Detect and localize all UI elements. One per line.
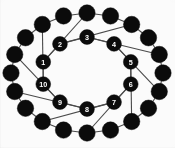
inner-node-circle bbox=[80, 30, 95, 45]
inner-node-circle bbox=[36, 54, 51, 69]
inner-node-1[interactable]: 1 bbox=[36, 54, 51, 69]
outer-node-11[interactable] bbox=[79, 125, 95, 141]
outer-node-9[interactable] bbox=[123, 113, 139, 129]
outer-node-5[interactable] bbox=[151, 46, 167, 62]
outer-node-10[interactable] bbox=[102, 122, 118, 138]
outer-node-16[interactable] bbox=[3, 65, 19, 81]
inner-node-9[interactable]: 9 bbox=[53, 95, 68, 110]
outer-node-18[interactable] bbox=[17, 30, 33, 46]
inner-node-circle bbox=[36, 77, 51, 92]
inner-node-7[interactable]: 7 bbox=[107, 95, 122, 110]
graph-figure: 12345678910 bbox=[0, 0, 175, 148]
outer-node-19[interactable] bbox=[34, 16, 50, 32]
inner-node-3[interactable]: 3 bbox=[80, 30, 95, 45]
outer-node-2[interactable] bbox=[102, 8, 118, 24]
outer-node-1[interactable] bbox=[79, 5, 95, 21]
outer-node-6[interactable] bbox=[155, 65, 171, 81]
inner-node-4[interactable]: 4 bbox=[107, 36, 122, 51]
outer-node-3[interactable] bbox=[123, 16, 139, 32]
outer-node-7[interactable] bbox=[151, 83, 167, 99]
inner-node-2[interactable]: 2 bbox=[53, 36, 68, 51]
outer-node-15[interactable] bbox=[7, 83, 23, 99]
outer-node-8[interactable] bbox=[140, 100, 156, 116]
inner-node-layer: 12345678910 bbox=[36, 30, 138, 117]
outer-node-14[interactable] bbox=[17, 100, 33, 116]
outer-node-layer bbox=[3, 5, 171, 141]
inner-node-6[interactable]: 6 bbox=[123, 77, 138, 92]
outer-node-20[interactable] bbox=[55, 8, 71, 24]
inner-node-circle bbox=[80, 102, 95, 117]
inner-node-circle bbox=[123, 54, 138, 69]
graph-canvas: 12345678910 bbox=[0, 0, 175, 148]
outer-node-17[interactable] bbox=[7, 46, 23, 62]
inner-node-circle bbox=[107, 36, 122, 51]
outer-node-4[interactable] bbox=[140, 30, 156, 46]
inner-node-circle bbox=[53, 95, 68, 110]
outer-node-12[interactable] bbox=[55, 122, 71, 138]
inner-node-10[interactable]: 10 bbox=[36, 77, 51, 92]
inner-node-circle bbox=[123, 77, 138, 92]
inner-node-circle bbox=[107, 95, 122, 110]
inner-node-8[interactable]: 8 bbox=[80, 102, 95, 117]
outer-node-13[interactable] bbox=[34, 113, 50, 129]
inner-node-5[interactable]: 5 bbox=[123, 54, 138, 69]
inner-node-circle bbox=[53, 36, 68, 51]
